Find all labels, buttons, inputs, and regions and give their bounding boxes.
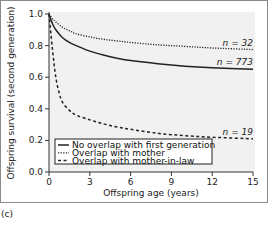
x-tick-label: 9 bbox=[169, 177, 175, 187]
y-tick-label: 0.2 bbox=[29, 135, 43, 145]
x-axis-title: Offspring age (years) bbox=[103, 188, 199, 198]
x-tick-label: 3 bbox=[87, 177, 93, 187]
panel-label: (c) bbox=[1, 209, 13, 219]
survival-chart: 0.00.20.40.60.81.003691215 n = 773n = 32… bbox=[0, 0, 272, 226]
x-tick-label: 6 bbox=[128, 177, 134, 187]
x-tick-label: 12 bbox=[206, 177, 217, 187]
series-n-annotation: n = 773 bbox=[217, 57, 253, 67]
series-n-annotation: n = 19 bbox=[223, 127, 254, 137]
y-tick-label: 0.6 bbox=[29, 72, 44, 82]
y-tick-label: 0.0 bbox=[29, 167, 44, 177]
series-n-annotation: n = 32 bbox=[223, 38, 254, 48]
y-tick-label: 0.4 bbox=[29, 104, 44, 114]
y-tick-label: 1.0 bbox=[29, 9, 44, 19]
legend: No overlap with first generationOverlap … bbox=[55, 139, 215, 166]
y-axis-title: Offspring survival (second generation) bbox=[6, 6, 16, 179]
y-tick-label: 0.8 bbox=[29, 41, 44, 51]
x-tick-label: 15 bbox=[247, 177, 258, 187]
legend-label: Overlap with mother-in-law bbox=[72, 156, 194, 166]
x-tick-label: 0 bbox=[46, 177, 52, 187]
